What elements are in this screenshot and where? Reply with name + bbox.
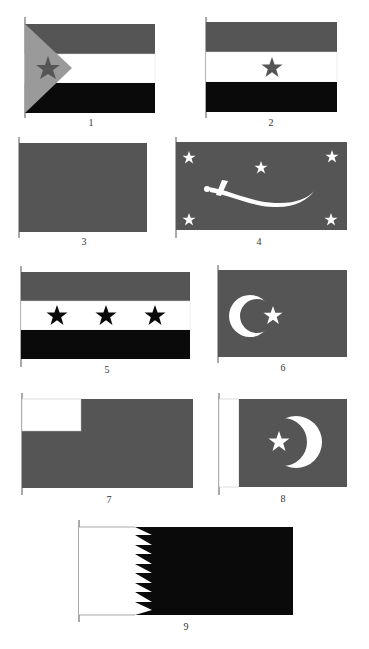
flag-4 <box>0 130 369 250</box>
flag-label-2: 2 <box>261 117 281 128</box>
flag-label-9: 9 <box>176 621 196 632</box>
flag-2-graphic <box>0 0 369 130</box>
flag-8-graphic <box>0 385 369 510</box>
flag-label-8: 8 <box>273 493 293 504</box>
flag-8 <box>0 385 369 510</box>
flag-4-graphic <box>0 130 369 250</box>
flag-label-6: 6 <box>273 362 293 373</box>
crescent-icon <box>259 416 322 468</box>
serrated-edge <box>79 527 152 615</box>
flag-label-4: 4 <box>249 236 269 247</box>
flag-6 <box>0 255 369 380</box>
flag-2 <box>0 0 369 130</box>
flag-6-graphic <box>0 255 369 380</box>
